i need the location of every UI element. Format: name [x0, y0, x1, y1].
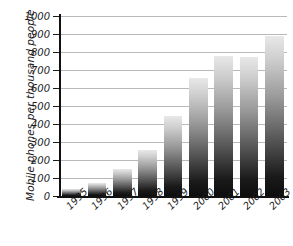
bar: [164, 116, 183, 196]
y-axis-tick-label: 600: [16, 88, 50, 89]
gridline: [59, 16, 287, 17]
y-axis-tick-label: 500: [16, 106, 50, 107]
bar: [214, 56, 233, 196]
y-axis-tick-label: 800: [16, 52, 50, 53]
y-axis-tick-label: 300: [16, 142, 50, 143]
plot-area: 01002003004005006007008009001000: [59, 16, 287, 196]
bar: [189, 78, 208, 196]
x-axis-tick-labels: 199519961997199819992000200120022003: [59, 200, 287, 246]
gridline: [59, 34, 287, 35]
y-axis-tick-label: 1000: [16, 16, 50, 17]
gridline: [59, 52, 287, 53]
y-axis-line: [59, 14, 61, 198]
y-axis-tick-label: 900: [16, 34, 50, 35]
bar: [240, 57, 259, 196]
y-axis-tick-label: 400: [16, 124, 50, 125]
y-axis-tick-label: 200: [16, 160, 50, 161]
y-axis-tick-label: 700: [16, 70, 50, 71]
y-axis-tick-label: 0: [16, 196, 50, 197]
y-axis-tick-label: 100: [16, 178, 50, 179]
bar: [265, 36, 284, 196]
bar-chart: Mobile phones per thousand people 010020…: [0, 0, 293, 246]
